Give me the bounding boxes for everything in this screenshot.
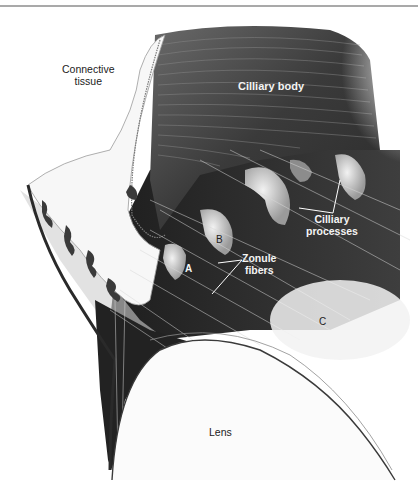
marker-a: A [185, 263, 192, 274]
marker-b: B [216, 234, 223, 245]
marker-c: C [319, 316, 326, 327]
label-ciliary-body-text: Cilliary body [238, 80, 304, 92]
label-ciliary-processes-line2: processes [306, 225, 358, 237]
label-zonule-fibers-line1: Zonule [242, 252, 276, 264]
label-ciliary-processes: Cilliary processes [306, 213, 358, 237]
label-ciliary-body: Cilliary body [238, 80, 304, 92]
label-connective-tissue-line2: tissue [62, 75, 115, 87]
label-lens-text: Lens [209, 426, 232, 438]
label-connective-tissue: Connective tissue [62, 63, 115, 87]
label-ciliary-processes-line1: Cilliary [306, 213, 358, 225]
label-lens: Lens [209, 426, 232, 438]
label-zonule-fibers: Zonule fibers [242, 252, 276, 276]
label-zonule-fibers-line2: fibers [242, 264, 276, 276]
fiber-insertion-region [270, 280, 410, 360]
label-connective-tissue-line1: Connective [62, 63, 115, 75]
